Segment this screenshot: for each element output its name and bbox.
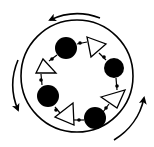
junction-dot [39,78,43,82]
node-1 [55,37,77,59]
junction-dot [54,108,58,112]
arrow-left-icon [13,60,18,110]
arrow-top-icon [50,14,100,20]
triangle-tri-2 [36,59,56,73]
junction-dot [104,106,108,110]
node-circles [37,37,124,129]
node-4 [84,107,106,129]
junction-dot [115,84,119,88]
ring-cycle-diagram [0,0,154,147]
connector-line [116,78,117,90]
junction-dot [102,55,106,59]
triangle-tri-4 [55,103,74,125]
triangle-tri-1 [87,37,106,57]
node-2 [104,58,124,78]
junction-dot [78,41,82,45]
junction-dots [39,41,119,122]
junction-dot [50,57,54,61]
triangle-elements [36,37,125,125]
junction-dot [77,118,81,122]
node-3 [37,85,59,107]
triangle-tri-3 [101,90,125,108]
